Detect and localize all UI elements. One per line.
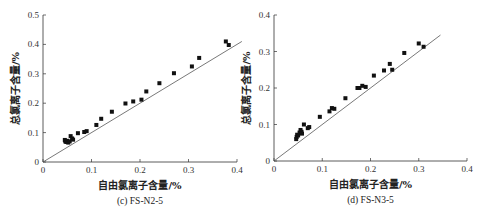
data-point xyxy=(71,138,75,142)
data-point xyxy=(388,62,392,66)
data-point xyxy=(302,123,306,127)
reference-line xyxy=(43,41,242,162)
y-tick-label: 0 xyxy=(266,156,271,166)
data-point xyxy=(190,64,194,68)
reference-line xyxy=(274,35,440,161)
data-point xyxy=(99,117,103,121)
data-point xyxy=(332,107,336,111)
x-tick-label: 0.4 xyxy=(461,164,473,174)
x-tick-label: 0.1 xyxy=(317,164,328,174)
data-point xyxy=(372,74,376,78)
chart-c: 00.10.20.30.400.10.20.30.40.5自由氯离子含量/%(c… xyxy=(9,10,243,207)
chart-d: 00.10.20.30.400.10.20.30.4自由氯离子含量/%(d) F… xyxy=(240,10,473,206)
data-point xyxy=(382,68,386,72)
y-tick-label: 0.4 xyxy=(28,39,40,49)
x-tick-label: 0.4 xyxy=(231,165,243,175)
x-axis-label: 自由氯离子含量/% xyxy=(329,178,413,190)
data-point xyxy=(364,85,368,89)
y-tick-label: 0.1 xyxy=(259,120,270,130)
y-tick-label: 0 xyxy=(35,157,40,167)
data-point xyxy=(307,125,311,129)
y-axis-label: 总氯离子含量/% xyxy=(9,51,21,125)
data-point xyxy=(139,98,143,102)
y-tick-label: 0.4 xyxy=(259,10,271,20)
data-point xyxy=(157,81,161,85)
data-point xyxy=(417,41,421,45)
x-tick-label: 0 xyxy=(41,165,46,175)
data-point xyxy=(224,39,228,43)
x-tick-label: 0.2 xyxy=(365,164,376,174)
x-tick-label: 0 xyxy=(272,164,277,174)
y-tick-label: 0.5 xyxy=(28,10,40,20)
data-point xyxy=(123,101,127,105)
y-axis-label: 总氯离子含量/% xyxy=(240,51,252,125)
y-tick-label: 0.3 xyxy=(259,47,271,57)
chart-caption: (c) FS-N2-5 xyxy=(117,196,163,207)
data-point xyxy=(144,89,148,93)
data-point xyxy=(300,132,304,136)
data-point xyxy=(131,99,135,103)
y-tick-label: 0.1 xyxy=(28,128,39,138)
data-point xyxy=(227,43,231,47)
data-point xyxy=(85,129,89,133)
data-point xyxy=(343,96,347,100)
data-point xyxy=(172,71,176,75)
chart-figure: 00.10.20.30.400.10.20.30.40.5自由氯离子含量/%(c… xyxy=(0,0,481,220)
data-point xyxy=(390,68,394,72)
x-tick-label: 0.2 xyxy=(134,165,145,175)
data-point xyxy=(110,110,114,114)
data-point xyxy=(318,115,322,119)
data-point xyxy=(76,131,80,135)
data-point xyxy=(94,123,98,127)
data-point xyxy=(422,45,426,49)
x-tick-label: 0.3 xyxy=(183,165,195,175)
data-point xyxy=(197,56,201,60)
y-tick-label: 0.2 xyxy=(28,98,39,108)
y-tick-label: 0.3 xyxy=(28,69,40,79)
y-tick-label: 0.2 xyxy=(259,83,270,93)
x-axis-label: 自由氯离子含量/% xyxy=(98,179,182,191)
x-tick-label: 0.3 xyxy=(413,164,425,174)
chart-caption: (d) FS-N3-5 xyxy=(347,195,394,206)
data-point xyxy=(402,51,406,55)
x-tick-label: 0.1 xyxy=(86,165,97,175)
